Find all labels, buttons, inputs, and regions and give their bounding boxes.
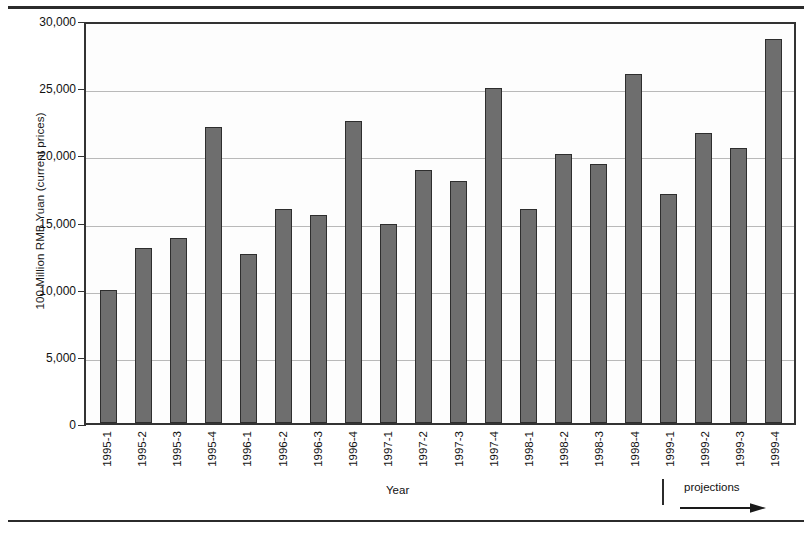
x-axis-tick-label: 1999-4: [769, 431, 781, 467]
bar-slot: [511, 24, 546, 423]
y-axis-tick-label: 0: [12, 418, 76, 432]
x-tick-slot: 1996-1: [230, 427, 265, 483]
x-axis-tick-label: 1999-3: [734, 431, 746, 467]
bar-slot: [406, 24, 441, 423]
bar-slot: [196, 24, 231, 423]
bar: [135, 248, 152, 423]
bar: [695, 133, 712, 423]
bar-slot: [546, 24, 581, 423]
bar-slot: [686, 24, 721, 423]
bar: [730, 148, 747, 423]
x-axis-tick-label: 1997-4: [488, 431, 500, 467]
x-axis-tick-label: 1996-1: [241, 431, 253, 467]
bar-slot: [336, 24, 371, 423]
bar: [100, 290, 117, 423]
bar-slot: [301, 24, 336, 423]
x-axis-tick-label: 1997-3: [453, 431, 465, 467]
x-tick-slot: 1998-2: [547, 427, 582, 483]
bar-slot: [441, 24, 476, 423]
x-tick-slot: 1998-3: [582, 427, 617, 483]
projections-arrow-icon: [680, 503, 766, 513]
bar-series: [86, 24, 794, 423]
x-axis-tick-label: 1995-4: [206, 431, 218, 467]
bar-slot: [91, 24, 126, 423]
y-axis-tick-label: 15,000: [12, 217, 76, 231]
x-axis-tick-label: 1997-1: [382, 431, 394, 467]
bar-slot: [721, 24, 756, 423]
bar: [380, 224, 397, 423]
x-axis-title: Year: [386, 484, 409, 496]
x-axis-tick-label: 1998-2: [558, 431, 570, 467]
x-axis-tick-label: 1999-2: [699, 431, 711, 467]
bar: [310, 215, 327, 423]
x-tick-slot: 1997-1: [371, 427, 406, 483]
bar: [765, 39, 782, 423]
bar: [450, 181, 467, 423]
y-axis-tick-label: 5,000: [12, 351, 76, 365]
bar: [555, 154, 572, 423]
x-tick-slot: 1995-1: [89, 427, 124, 483]
bar: [415, 170, 432, 423]
bar: [660, 194, 677, 423]
x-axis-tick-label: 1995-3: [171, 431, 183, 467]
bar: [625, 74, 642, 423]
bar: [170, 238, 187, 423]
bar: [485, 88, 502, 423]
bar: [345, 121, 362, 423]
x-tick-slot: 1997-2: [406, 427, 441, 483]
bar: [520, 209, 537, 423]
x-tick-slot: 1998-4: [617, 427, 652, 483]
x-tick-slot: 1996-4: [335, 427, 370, 483]
x-axis-tick-label: 1996-2: [277, 431, 289, 467]
bar: [590, 164, 607, 423]
projections-divider: [662, 479, 664, 505]
x-tick-slot: 1995-4: [195, 427, 230, 483]
x-axis-tick-label: 1999-1: [664, 431, 676, 467]
projections-label: projections: [684, 481, 740, 493]
x-tick-slot: 1997-3: [441, 427, 476, 483]
x-tick-slot: 1996-3: [300, 427, 335, 483]
bar-slot: [266, 24, 301, 423]
bar-slot: [616, 24, 651, 423]
bar: [205, 127, 222, 423]
x-axis-tick-label: 1998-4: [629, 431, 641, 467]
bar: [240, 254, 257, 423]
plot-area: [84, 22, 796, 425]
x-tick-slot: 1995-2: [124, 427, 159, 483]
x-tick-slot: 1996-2: [265, 427, 300, 483]
y-axis-tick-mark: [78, 425, 86, 426]
bar-slot: [371, 24, 406, 423]
x-axis-tick-label: 1996-3: [312, 431, 324, 467]
bar-slot: [161, 24, 196, 423]
x-tick-slot: 1997-4: [476, 427, 511, 483]
bar-slot: [581, 24, 616, 423]
y-axis-tick-label: 25,000: [12, 82, 76, 96]
x-tick-slot: 1999-2: [687, 427, 722, 483]
y-axis-tick-label: 10,000: [12, 284, 76, 298]
bar-chart-figure: 100 Million RMB Yuan (current prices) 30…: [0, 0, 812, 533]
x-axis-tick-labels: 1995-11995-21995-31995-41996-11996-21996…: [84, 427, 796, 483]
x-tick-slot: 1999-3: [723, 427, 758, 483]
bar-slot: [126, 24, 161, 423]
x-axis-tick-label: 1995-1: [101, 431, 113, 467]
x-axis-tick-label: 1998-1: [523, 431, 535, 467]
x-tick-slot: 1999-1: [652, 427, 687, 483]
bar-slot: [651, 24, 686, 423]
bar: [275, 209, 292, 423]
bar-slot: [756, 24, 791, 423]
x-axis-tick-label: 1997-2: [417, 431, 429, 467]
bar-slot: [231, 24, 266, 423]
x-tick-slot: 1995-3: [159, 427, 194, 483]
y-axis-tick-labels: 30,00025,00020,00015,00010,0005,0000: [8, 22, 76, 425]
bar-slot: [476, 24, 511, 423]
y-axis-tick-label: 30,000: [12, 15, 76, 29]
x-axis-tick-label: 1996-4: [347, 431, 359, 467]
x-tick-slot: 1998-1: [511, 427, 546, 483]
x-axis-tick-label: 1998-3: [593, 431, 605, 467]
x-axis-tick-label: 1995-2: [136, 431, 148, 467]
x-tick-slot: 1999-4: [758, 427, 793, 483]
y-axis-tick-label: 20,000: [12, 149, 76, 163]
